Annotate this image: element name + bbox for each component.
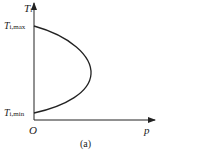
figure-caption: (a) xyxy=(80,139,91,149)
y-axis-label: Ti xyxy=(24,3,32,14)
x-axis-label: p xyxy=(144,125,150,136)
temperature-curve xyxy=(34,26,91,113)
origin-label: O xyxy=(29,125,37,136)
tick-label-t-max: Ti,max xyxy=(4,21,25,31)
tick-label-t-min: Ti,min xyxy=(4,108,24,118)
